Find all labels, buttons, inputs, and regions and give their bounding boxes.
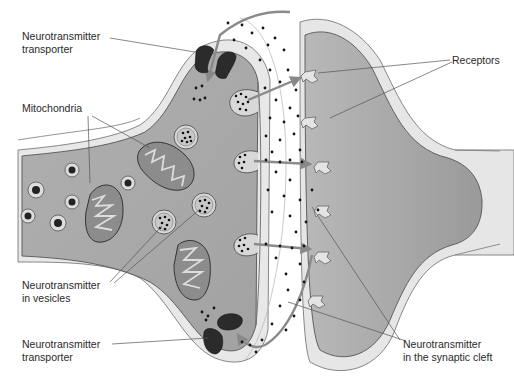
- label-line: in vesicles: [22, 292, 100, 305]
- label-line: Mitochondria: [22, 102, 82, 115]
- label-line: Neurotransmitter: [22, 30, 100, 43]
- label-line: transporter: [22, 43, 100, 56]
- label-line: Neurotransmitter: [22, 279, 100, 292]
- vesicle: [174, 125, 198, 149]
- label-mitochondria: Mitochondria: [22, 102, 82, 115]
- label-vesicles: Neurotransmitter in vesicles: [22, 279, 100, 305]
- label-line: Receptors: [452, 54, 500, 67]
- synapse-diagram: Neurotransmitter transporter Mitochondri…: [0, 0, 514, 391]
- label-synaptic-cleft: Neurotransmitter in the synaptic cleft: [403, 338, 492, 364]
- presynaptic-cytoplasm: [22, 52, 258, 351]
- vesicle: [152, 210, 176, 234]
- label-line: in the synaptic cleft: [403, 351, 492, 364]
- label-line: Neurotransmitter: [403, 338, 492, 351]
- label-line: Neurotransmitter: [22, 338, 100, 351]
- vesicle: [192, 193, 216, 217]
- synapse-illustration: [0, 0, 514, 391]
- label-transporter-top: Neurotransmitter transporter: [22, 30, 100, 56]
- label-receptors: Receptors: [452, 54, 500, 67]
- label-line: transporter: [22, 351, 100, 364]
- label-transporter-bottom: Neurotransmitter transporter: [22, 338, 100, 364]
- postsynaptic-cytoplasm: [305, 32, 482, 357]
